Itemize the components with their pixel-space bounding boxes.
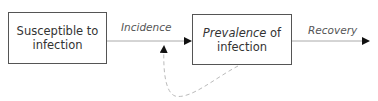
prevalence-label-italic: Prevalence bbox=[203, 26, 267, 40]
prevalence-node: Prevalence of infection bbox=[192, 14, 292, 65]
incidence-label: Incidence bbox=[121, 21, 171, 33]
prevalence-label-of: of bbox=[266, 26, 281, 40]
diagram-canvas: Susceptible to infection Prevalence of i… bbox=[0, 0, 378, 101]
susceptible-node: Susceptible to infection bbox=[8, 12, 107, 64]
recovery-label: Recovery bbox=[308, 24, 357, 36]
susceptible-label-line2: infection bbox=[33, 38, 83, 52]
susceptible-label-line1: Susceptible to bbox=[17, 24, 99, 38]
prevalence-label-line2: infection bbox=[217, 40, 267, 54]
